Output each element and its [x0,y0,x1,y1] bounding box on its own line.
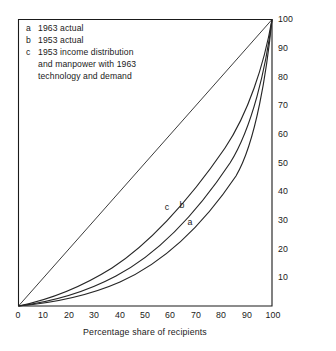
x-tick-40: 40 [115,310,125,320]
legend-item-c: c 1953 income distribution [26,47,176,59]
y-tick-90: 90 [278,43,288,53]
curve-annotation-c: c [165,202,169,212]
x-tick-100: 100 [266,310,281,320]
legend-key-b: b [26,35,38,47]
y-tick-10: 10 [278,272,288,282]
y-tick-40: 40 [278,186,288,196]
y-tick-70: 70 [278,100,288,110]
legend-label-c-line2: and manpower with 1963 [38,59,176,71]
y-tick-20: 20 [278,244,288,254]
y-tick-30: 30 [278,215,288,225]
x-tick-50: 50 [140,310,150,320]
legend-label-a: 1963 actual [38,23,176,35]
legend-item-a: a 1963 actual [26,23,176,35]
y-tick-80: 80 [278,72,288,82]
x-axis-title: Percentage share of recipients [0,327,290,337]
x-tick-90: 90 [242,310,252,320]
legend-item-b: b 1953 actual [26,35,176,47]
x-tick-30: 30 [89,310,99,320]
curve-annotation-a: a [188,217,193,227]
x-tick-20: 20 [64,310,74,320]
legend-key-a: a [26,23,38,35]
x-tick-80: 80 [216,310,226,320]
y-tick-100: 100 [278,14,293,24]
y-tick-50: 50 [278,158,288,168]
legend-label-c-line3: technology and demand [38,71,176,83]
x-tick-70: 70 [191,310,201,320]
curve-annotation-b: b [180,200,185,210]
figure: a 1963 actual b 1953 actual c 1953 incom… [0,0,336,351]
legend: a 1963 actual b 1953 actual c 1953 incom… [26,23,176,82]
legend-key-c: c [26,47,38,59]
x-tick-60: 60 [165,310,175,320]
legend-label-b: 1953 actual [38,35,176,47]
legend-label-c: 1953 income distribution [38,47,176,59]
y-tick-60: 60 [278,129,288,139]
x-tick-10: 10 [38,310,48,320]
x-tick-0: 0 [16,310,21,320]
